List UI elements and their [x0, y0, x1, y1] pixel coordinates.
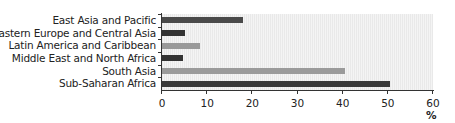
y-tick: [158, 77, 161, 78]
x-tick-label: 60: [418, 97, 448, 109]
x-tick: [161, 90, 162, 94]
bar: [162, 55, 183, 61]
plot-area: [162, 14, 433, 90]
y-tick: [158, 14, 161, 15]
x-tick-label: 40: [328, 97, 358, 109]
y-tick: [158, 27, 161, 28]
bar: [162, 43, 200, 49]
x-tick: [342, 90, 343, 94]
x-tick-label: 50: [373, 97, 403, 109]
x-tick-label: 30: [283, 97, 313, 109]
y-tick: [158, 52, 161, 53]
x-tick: [387, 90, 388, 94]
bar: [162, 68, 345, 74]
category-label: South Asia: [102, 65, 156, 77]
bar: [162, 30, 185, 36]
y-tick: [158, 39, 161, 40]
y-axis: [161, 13, 162, 91]
category-label: Eastern Europe and Central Asia: [0, 27, 156, 39]
category-label: East Asia and Pacific: [52, 14, 156, 26]
x-axis-unit-label: %: [426, 109, 437, 121]
category-label: Sub-Saharan Africa: [59, 77, 156, 89]
x-tick: [432, 90, 433, 94]
x-tick-label: 10: [192, 97, 222, 109]
x-tick: [251, 90, 252, 94]
bar: [162, 17, 243, 23]
x-tick: [206, 90, 207, 94]
x-tick-label: 20: [237, 97, 267, 109]
category-label: Middle East and North Africa: [12, 52, 156, 64]
x-tick-label: 0: [147, 97, 177, 109]
y-tick: [158, 65, 161, 66]
category-label: Latin America and Caribbean: [8, 39, 156, 51]
bar: [162, 81, 390, 87]
x-tick: [297, 90, 298, 94]
